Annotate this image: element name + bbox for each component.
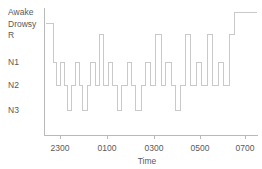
sleep-stage-trace — [46, 13, 258, 111]
y-axis-labels: Awake Drowsy R N1 N2 N3 — [8, 7, 37, 115]
x-axis-title: Time — [138, 156, 157, 166]
x-axis-label-2300: 2300 — [51, 143, 70, 153]
y-axis-label-n3: N3 — [8, 105, 19, 115]
y-axis-label-n2: N2 — [8, 80, 19, 90]
y-axis-label-awake: Awake — [8, 7, 34, 17]
x-axis-label-0700: 0700 — [236, 143, 255, 153]
x-axis-label-0500: 0500 — [191, 143, 210, 153]
hypnogram-chart: Awake Drowsy R N1 N2 N3 2300 0100 0300 0… — [0, 0, 262, 169]
y-axis-label-drowsy: Drowsy — [8, 19, 37, 29]
chart-canvas: Awake Drowsy R N1 N2 N3 2300 0100 0300 0… — [0, 0, 262, 169]
x-axis-label-0300: 0300 — [145, 143, 164, 153]
y-axis-label-n1: N1 — [8, 57, 19, 67]
x-axis-label-0100: 0100 — [98, 143, 117, 153]
y-axis-label-r: R — [8, 30, 14, 40]
x-axis-tick-labels: 2300 0100 0300 0500 0700 — [51, 143, 255, 153]
